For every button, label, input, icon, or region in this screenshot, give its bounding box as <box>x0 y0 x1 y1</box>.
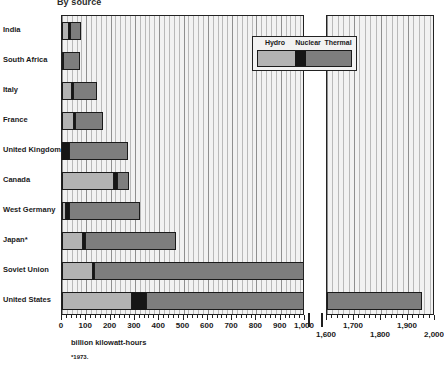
axis-break-mark <box>308 313 310 327</box>
axis-break-mark <box>321 313 323 327</box>
bar-segment-nuclear <box>132 292 145 310</box>
axis-tick <box>275 315 276 318</box>
axis-tick <box>212 315 213 318</box>
axis-tick <box>144 315 145 318</box>
axis-tick <box>66 315 67 318</box>
gridline <box>408 16 409 314</box>
y-axis-label: Canada <box>3 175 30 184</box>
axis-tick <box>168 315 169 318</box>
legend-labels: HydroNuclearThermal <box>253 39 356 49</box>
bar-segment-thermal <box>117 172 129 190</box>
x-axis-tick-label: 800 <box>249 321 262 330</box>
gridline <box>381 16 382 314</box>
legend-label-hydro: Hydro <box>265 39 285 46</box>
bar-segment-thermal <box>69 202 140 220</box>
axis-tick <box>183 315 184 320</box>
x-axis-tick-label: 400 <box>152 321 165 330</box>
axis-tick <box>270 315 271 318</box>
x-axis-tick-label: 1,900 <box>397 321 417 330</box>
bar-segment-hydro <box>62 232 83 250</box>
x-axis-tick-label: 900 <box>273 321 286 330</box>
axis-tick <box>139 315 140 318</box>
axis-tick <box>294 315 295 318</box>
axis-tick <box>353 315 354 320</box>
legend-swatch-thermal <box>306 51 351 66</box>
axis-tick <box>331 315 332 318</box>
y-axis-label: Soviet Union <box>3 265 49 274</box>
axis-tick <box>337 315 338 318</box>
x-axis-tick-label: 1,700 <box>343 321 363 330</box>
axis-tick <box>251 315 252 318</box>
axis-tick <box>396 315 397 318</box>
bar-segment-hydro <box>62 262 93 280</box>
axis-tick <box>192 315 193 318</box>
bar-segment-thermal <box>70 22 82 40</box>
axis-tick <box>217 315 218 318</box>
axis-tick <box>148 315 149 318</box>
axis-tick <box>187 315 188 318</box>
axis-tick <box>110 315 111 320</box>
x-axis-tick-label: 700 <box>224 321 237 330</box>
axis-tick <box>158 315 159 320</box>
axis-tick <box>197 315 198 318</box>
axis-tick <box>380 315 381 320</box>
axis-tick <box>402 315 403 318</box>
gridline <box>386 16 387 314</box>
legend-swatch-hydro <box>258 51 295 66</box>
gridline <box>376 16 377 314</box>
axis-tick <box>129 315 130 318</box>
axis-tick <box>375 315 376 318</box>
x-axis-tick-label: 200 <box>103 321 116 330</box>
axis-tick <box>95 315 96 318</box>
axis-tick <box>105 315 106 318</box>
y-axis-label: South Africa <box>3 55 47 64</box>
bar-segment-thermal <box>327 292 422 310</box>
axis-tick <box>289 315 290 318</box>
legend-label-thermal: Thermal <box>324 39 351 46</box>
axis-tick <box>265 315 266 318</box>
bar-segment-thermal <box>73 82 97 100</box>
y-axis-label: Japan* <box>3 235 28 244</box>
x-axis-tick-label: 0 <box>59 321 63 330</box>
axis-tick <box>76 315 77 318</box>
axis-tick <box>407 315 408 320</box>
axis-tick <box>236 315 237 318</box>
x-axis-tick-label: 600 <box>200 321 213 330</box>
y-axis-label: West Germany <box>3 205 55 214</box>
gridline <box>413 16 414 314</box>
legend-swatch-nuclear <box>295 51 306 66</box>
y-axis-label: India <box>3 25 21 34</box>
x-axis-tick-label: 100 <box>79 321 92 330</box>
axis-tick <box>246 315 247 318</box>
x-axis-title: billion kilowatt-hours <box>71 338 146 347</box>
axis-tick <box>178 315 179 318</box>
axis-tick <box>173 315 174 318</box>
gridline <box>430 16 431 314</box>
axis-tick <box>285 315 286 318</box>
legend-swatches <box>257 50 352 67</box>
x-axis-tick-label: 500 <box>176 321 189 330</box>
y-axis-label: United States <box>3 295 51 304</box>
axis-tick <box>364 315 365 318</box>
bar-segment-nuclear <box>62 142 69 160</box>
axis-tick <box>153 315 154 318</box>
x-axis-tick-label: 1,600 <box>316 330 336 339</box>
axis-tick <box>163 315 164 318</box>
axis-tick <box>119 315 120 318</box>
bar-segment-thermal <box>146 292 304 310</box>
axis-tick <box>255 315 256 320</box>
gridline <box>419 16 420 314</box>
axis-tick <box>90 315 91 318</box>
axis-tick <box>221 315 222 318</box>
bar-segment-hydro <box>62 292 132 310</box>
axis-tick <box>348 315 349 318</box>
axis-tick <box>326 315 327 320</box>
axis-tick <box>100 315 101 318</box>
axis-tick <box>114 315 115 318</box>
bar-segment-hydro <box>62 22 69 40</box>
gridline <box>397 16 398 314</box>
axis-tick <box>260 315 261 318</box>
x-axis-tick-label: 1,800 <box>370 330 390 339</box>
axis-tick <box>85 315 86 320</box>
